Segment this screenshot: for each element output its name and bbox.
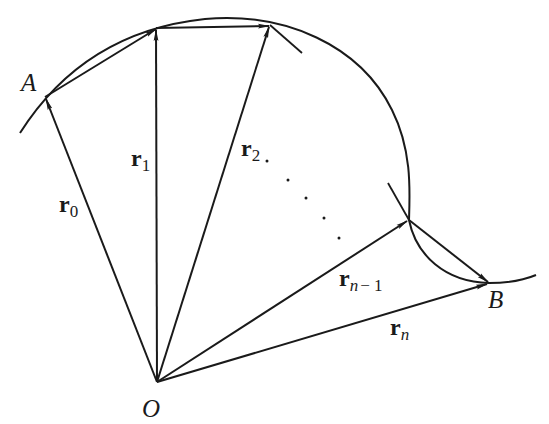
vector-arrow-r2 [157, 27, 269, 382]
vector-arrow-rn [157, 284, 487, 382]
vector-arrow-rn-1 [157, 221, 407, 382]
vector-label-rn-1: rn− 1 [339, 265, 383, 295]
vector-label-r1: r1 [131, 145, 150, 175]
vector-label-r0: r0 [59, 191, 78, 221]
point-label-b: B [488, 286, 503, 313]
vector-arrow-r1 [156, 30, 157, 382]
curve-path [20, 18, 536, 283]
curve-vector-diagram: A O B r0 r1 r2 rn− 1 rn [0, 0, 549, 424]
vector-arrow-r0 [46, 99, 157, 382]
chord-arrow-p1-p2 [156, 26, 269, 28]
ellipsis-dots [266, 160, 341, 240]
point-label-o: O [142, 395, 160, 422]
vector-label-rn: rn [390, 314, 409, 344]
vector-label-r2: r2 [241, 135, 260, 165]
tangent-line-pn-1 [388, 183, 409, 220]
chord-arrow-a-p1 [45, 29, 156, 97]
point-label-a: A [19, 69, 37, 96]
